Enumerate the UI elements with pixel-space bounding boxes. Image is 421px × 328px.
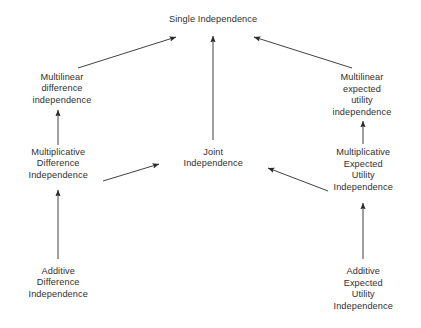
node-label-line: Single Independence bbox=[169, 14, 257, 26]
node-multilinear-expected-utility-independence: Multilinearexpectedutilityindependence bbox=[333, 72, 392, 118]
node-label-line: Multiplicative bbox=[334, 147, 393, 159]
node-label-line: Difference bbox=[29, 158, 88, 170]
node-label-line: expected bbox=[333, 84, 392, 96]
node-label-line: Multiplicative bbox=[29, 147, 88, 159]
node-additive-difference-independence: AdditiveDifferenceIndependence bbox=[29, 266, 88, 301]
node-label-line: Utility bbox=[334, 170, 393, 182]
node-label-line: Multilinear bbox=[333, 72, 392, 84]
node-label-line: Independence bbox=[334, 301, 393, 313]
node-single-independence: Single Independence bbox=[169, 14, 257, 26]
node-label-line: Expected bbox=[334, 159, 393, 171]
node-joint-independence: JointIndependence bbox=[184, 147, 243, 170]
edge-multiplicative-expected-utility-to-joint bbox=[268, 168, 328, 191]
node-label-line: Utility bbox=[334, 289, 393, 301]
node-label-line: Additive bbox=[29, 266, 88, 278]
independence-hierarchy-diagram: Single IndependenceMultilineardifference… bbox=[0, 0, 421, 328]
node-additive-expected-utility-independence: AdditiveExpectedUtilityIndependence bbox=[334, 266, 393, 312]
node-label-line: independence bbox=[333, 107, 392, 119]
edge-multiplicative-difference-to-joint bbox=[103, 164, 159, 181]
node-label-line: difference bbox=[33, 83, 92, 95]
node-label-line: Independence bbox=[29, 289, 88, 301]
node-label-line: utility bbox=[333, 95, 392, 107]
node-multiplicative-expected-utility-independence: MultiplicativeExpectedUtilityIndependenc… bbox=[334, 147, 393, 193]
node-label-line: Multilinear bbox=[33, 72, 92, 84]
node-label-line: Independence bbox=[184, 158, 243, 170]
node-multilinear-difference-independence: Multilineardifferenceindependence bbox=[33, 72, 92, 107]
edge-multilinear-difference-to-single bbox=[78, 37, 176, 68]
node-label-line: Joint bbox=[184, 147, 243, 159]
node-label-line: Additive bbox=[334, 266, 393, 278]
node-label-line: independence bbox=[33, 95, 92, 107]
node-label-line: Independence bbox=[29, 170, 88, 182]
node-multiplicative-difference-independence: MultiplicativeDifferenceIndependence bbox=[29, 147, 88, 182]
node-label-line: Difference bbox=[29, 277, 88, 289]
edge-multilinear-expected-utility-to-single bbox=[254, 37, 352, 68]
node-label-line: Independence bbox=[334, 182, 393, 194]
node-label-line: Expected bbox=[334, 278, 393, 290]
